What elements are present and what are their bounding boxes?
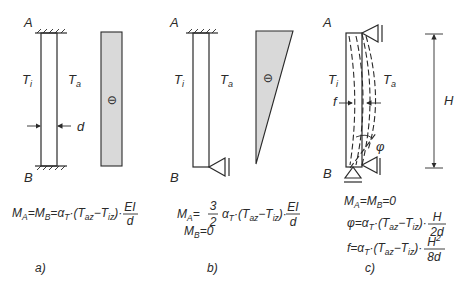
deflection-label: f: [333, 94, 338, 109]
svg-text:d: d: [290, 215, 297, 229]
outer-temp-label: Ta: [220, 72, 233, 89]
height-dimension: [425, 34, 443, 168]
outer-temp-label: Ta: [68, 72, 81, 89]
panel-c: A B φ Ti Ta: [322, 15, 454, 275]
node-b-label: B: [170, 170, 179, 185]
rotation-label: φ: [376, 139, 385, 154]
node-a-label: A: [169, 15, 179, 30]
column: [193, 33, 209, 167]
node-b-label: B: [24, 170, 33, 185]
svg-text:φ=αT·(Taz−Tiz)·: φ=αT·(Taz−Tiz)·: [347, 216, 427, 232]
fixed-support-bottom: [35, 166, 67, 170]
negative-sign-icon: ⊖: [107, 93, 117, 107]
node-a-label: A: [322, 15, 332, 30]
roller-support-bottom-right: [362, 157, 380, 175]
svg-text:MA=MB=0: MA=MB=0: [344, 194, 396, 210]
height-label: H: [444, 93, 454, 108]
svg-text:MA=: MA=: [177, 207, 200, 223]
svg-text:f=αT·(Taz−Tiz)·: f=αT·(Taz−Tiz)·: [347, 241, 422, 257]
thickness-label: d: [77, 119, 85, 134]
svg-text:αT·(Taz−Tiz)·: αT·(Taz−Tiz)·: [222, 207, 287, 223]
svg-text:MB=0: MB=0: [184, 224, 214, 240]
svg-text:EI: EI: [287, 200, 299, 214]
caption-b: b): [207, 261, 218, 275]
node-a-label: A: [23, 15, 33, 30]
moment-diagram-triangle: [256, 31, 293, 164]
roller-support-bottom: [209, 158, 229, 176]
pin-support-bottom: [344, 167, 362, 182]
roller-support-top: [362, 25, 382, 42]
rotation-angle: [350, 132, 377, 168]
formula-a: MA=MB=αT·(Taz−Tiz)· EI d: [12, 200, 138, 228]
caption-c: c): [365, 261, 375, 275]
thermal-moment-figure: A B Ti Ta d ⊖ MA=MB=αT·(Taz−Tiz)· EI: [0, 0, 464, 292]
panel-a: A B Ti Ta d ⊖ MA=MB=αT·(Taz−Tiz)· EI: [12, 15, 138, 275]
panel-b: A B Ti Ta ⊖ MA= 3 2 αT·(Taz−Tiz)· EI d M…: [169, 15, 300, 275]
caption-a: a): [35, 261, 46, 275]
negative-sign-icon: ⊖: [263, 71, 273, 85]
svg-text:8d: 8d: [427, 250, 441, 264]
formula-c: MA=MB=0 φ=αT·(Taz−Tiz)· H 2d f=αT·(Taz−T…: [344, 194, 446, 264]
svg-text:3: 3: [210, 199, 217, 213]
inner-temp-label: Ti: [174, 72, 185, 89]
column: [41, 33, 57, 166]
inner-temp-label: Ti: [22, 72, 33, 89]
outer-temp-label: Ta: [383, 72, 396, 89]
formula-b: MA= 3 2 αT·(Taz−Tiz)· EI d MB=0: [177, 199, 300, 240]
svg-text:H2: H2: [427, 233, 441, 249]
svg-text:MA=MB=αT·(Taz−Tiz)·: MA=MB=αT·(Taz−Tiz)·: [12, 206, 122, 222]
node-b-label: B: [323, 166, 332, 181]
svg-text:d: d: [127, 214, 134, 228]
svg-text:H: H: [433, 210, 442, 224]
svg-text:EI: EI: [124, 200, 136, 214]
inner-temp-label: Ti: [328, 72, 339, 89]
